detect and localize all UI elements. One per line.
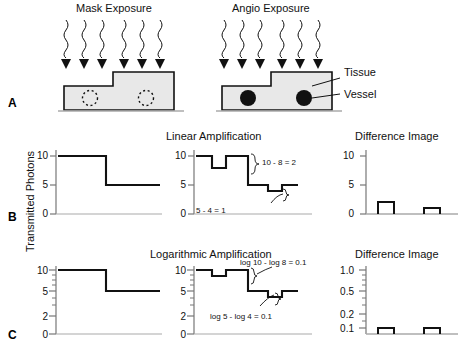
b3-bar-1 (378, 202, 394, 214)
difference-image-title-c: Difference Image (355, 248, 439, 260)
c3-bar-2 (424, 328, 440, 334)
c2-ytick-2: 2 (166, 311, 186, 322)
c2-ytick-10: 10 (166, 265, 186, 276)
angio-xray-beams (222, 20, 320, 58)
angio-vessel-1 (240, 90, 256, 106)
b2-ytick-10: 10 (166, 150, 186, 161)
b1-signal-trace (58, 156, 160, 185)
b1-ytick-10: 10 (28, 150, 48, 161)
angio-tissue-shape (222, 72, 332, 110)
mask-xray-beams (64, 20, 162, 58)
panel-letter-a: A (8, 96, 17, 110)
chart-mask-linear (34, 148, 164, 224)
c2-brace-upper (251, 268, 257, 284)
linear-amplification-title: Linear Amplification (166, 130, 261, 142)
mask-exposure-diagram (58, 18, 188, 118)
b2-yticks (188, 156, 194, 214)
b2-brace-lower (283, 189, 289, 201)
chart-angio-linear (172, 148, 322, 224)
c2-annotation-lower: log 5 - log 4 = 0.1 (210, 312, 272, 321)
c1-ytick-10: 10 (28, 265, 48, 276)
b3-ytick-0: 0 (334, 208, 354, 219)
c2-signal-trace (196, 270, 298, 297)
angio-exposure-title: Angio Exposure (232, 2, 310, 14)
c2-ytick-0: 0 (166, 329, 186, 340)
c2-ytick-5: 5 (166, 286, 186, 297)
b2-ytick-0: 0 (166, 208, 186, 219)
b3-yticks (360, 156, 366, 214)
b1-ytick-5: 5 (28, 179, 48, 190)
c3-ytick-1-0: 1.0 (326, 265, 354, 276)
figure-root: A Mask Exposure Angio Exposure (0, 0, 461, 362)
chart-mask-log (34, 264, 164, 344)
tissue-callout-label: Tissue (344, 66, 376, 78)
c1-ytick-5: 5 (28, 286, 48, 297)
chart-difference-linear (352, 148, 461, 224)
c3-ytick-0-2: 0.2 (326, 309, 354, 320)
angio-arrowheads (219, 59, 323, 69)
b2-annotation-lower: 5 - 4 = 1 (196, 206, 226, 215)
mask-tissue-shape (64, 72, 174, 110)
b3-ytick-10: 10 (334, 150, 354, 161)
c3-bar-1 (378, 328, 394, 334)
panel-letter-b: B (8, 210, 17, 224)
chart-angio-log (172, 264, 322, 344)
c2-brace-lower (275, 293, 281, 305)
b3-ytick-5: 5 (334, 179, 354, 190)
mask-arrowheads (61, 59, 165, 69)
b2-brace-upper (251, 154, 259, 174)
b2-leader-lower (271, 194, 283, 203)
c2-leader-upper (257, 267, 272, 274)
c3-yticks-major (359, 270, 366, 328)
c2-yticks-minor (190, 275, 194, 305)
panel-letter-c: C (8, 328, 17, 342)
difference-image-title-b: Difference Image (355, 130, 439, 142)
b2-annotation-upper: 10 - 8 = 2 (262, 158, 296, 167)
c3-ytick-0-5: 0.5 (326, 286, 354, 297)
c1-ytick-0: 0 (28, 329, 48, 340)
vessel-callout-label: Vessel (344, 88, 376, 100)
b1-yticks (50, 156, 56, 214)
c1-ytick-2: 2 (28, 311, 48, 322)
angio-exposure-diagram (216, 18, 346, 118)
chart-difference-log (352, 264, 461, 344)
c2-annotation-upper: log 10 - log 8 = 0.1 (240, 258, 307, 267)
b1-ytick-0: 0 (28, 208, 48, 219)
c1-signal-trace (58, 270, 160, 291)
b3-bar-2 (424, 208, 440, 214)
b2-ytick-5: 5 (166, 179, 186, 190)
angio-vessel-2 (296, 90, 312, 106)
c3-ytick-0-1: 0.1 (326, 323, 354, 334)
mask-exposure-title: Mask Exposure (76, 2, 152, 14)
